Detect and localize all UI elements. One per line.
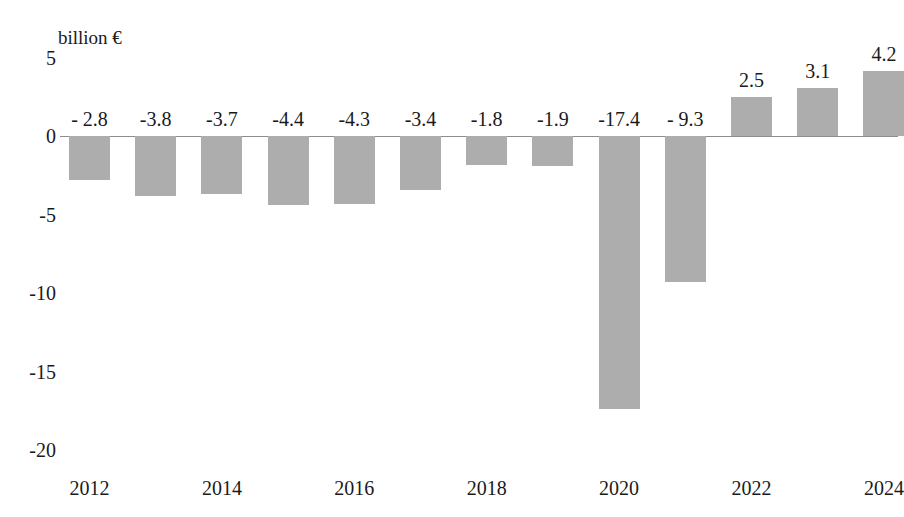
x-axis-tick-label: 2018 <box>467 478 507 498</box>
bar <box>334 136 375 203</box>
y-axis-tick-label: -20 <box>10 440 56 460</box>
y-axis-tick-label: -5 <box>10 205 56 225</box>
bar <box>466 136 507 164</box>
bar-value-label: -17.4 <box>598 109 640 129</box>
bar-value-label: -4.4 <box>272 109 304 129</box>
bar <box>797 88 838 137</box>
bar <box>400 136 441 189</box>
x-axis: 2012201420162018202020222024 <box>60 470 900 517</box>
plot-area: - 2.8-3.8-3.7-4.4-4.3-3.4-1.8-1.9-17.4- … <box>60 0 900 470</box>
bar-value-label: 3.1 <box>805 61 830 81</box>
x-axis-tick-label: 2014 <box>202 478 242 498</box>
x-axis-tick-label: 2024 <box>864 478 904 498</box>
bar-value-label: - 2.8 <box>71 109 108 129</box>
bar-value-label: -3.7 <box>206 109 238 129</box>
y-axis-tick-label: 0 <box>10 126 56 146</box>
y-axis-tick-label: -10 <box>10 283 56 303</box>
y-axis-tick-label: -15 <box>10 362 56 382</box>
y-axis: 50-5-10-15-20 <box>0 0 56 517</box>
bar-value-label: -3.4 <box>405 109 437 129</box>
bar <box>268 136 309 205</box>
bar <box>69 136 110 180</box>
bar <box>863 71 904 137</box>
bar <box>731 97 772 136</box>
x-axis-tick-label: 2020 <box>599 478 639 498</box>
bar <box>201 136 242 194</box>
bar-value-label: - 9.3 <box>667 109 704 129</box>
bar-value-label: -1.8 <box>471 109 503 129</box>
y-axis-tick-label: 5 <box>10 48 56 68</box>
bar <box>532 136 573 166</box>
bar-value-label: -1.9 <box>537 109 569 129</box>
bar-value-label: -4.3 <box>338 109 370 129</box>
bar <box>135 136 176 196</box>
bar-value-label: 4.2 <box>871 44 896 64</box>
x-axis-tick-label: 2022 <box>732 478 772 498</box>
bar-value-label: -3.8 <box>140 109 172 129</box>
bar <box>665 136 706 282</box>
bar <box>599 136 640 409</box>
x-axis-tick-label: 2012 <box>70 478 110 498</box>
x-axis-tick-label: 2016 <box>334 478 374 498</box>
bar-value-label: 2.5 <box>739 70 764 90</box>
